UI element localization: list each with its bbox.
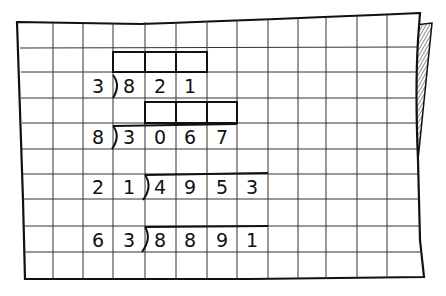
divisor-digit: 6 <box>92 229 104 251</box>
dividend-digit: 9 <box>184 176 196 198</box>
dividend-digit: 6 <box>184 126 196 148</box>
divisor-digit: 3 <box>92 75 104 97</box>
dividend-digit: 1 <box>246 229 258 251</box>
dividend-digit: 8 <box>154 229 166 251</box>
divisor-digit: 1 <box>123 176 135 198</box>
dividend-digit: 7 <box>216 126 228 148</box>
divisor-digit: 3 <box>123 229 135 251</box>
dividend-digit: 5 <box>216 176 228 198</box>
dividend-digit: 8 <box>184 229 196 251</box>
dividend-digit: 4 <box>154 176 166 198</box>
dividend-digit: 1 <box>184 75 196 97</box>
dividend-digit: 8 <box>123 75 135 97</box>
dividend-digit: 9 <box>216 229 228 251</box>
dividend-digit: 3 <box>123 126 135 148</box>
dividend-digit: 0 <box>154 126 166 148</box>
dividend-digit: 3 <box>246 176 258 198</box>
grid-paper-sheet: 3 8 2 1 8 3 0 6 7 2 1 4 9 5 3 6 3 8 8 9 … <box>0 0 446 296</box>
divisor-digit: 8 <box>92 126 104 148</box>
dividend-digit: 2 <box>154 75 166 97</box>
divisor-digit: 2 <box>92 176 104 198</box>
